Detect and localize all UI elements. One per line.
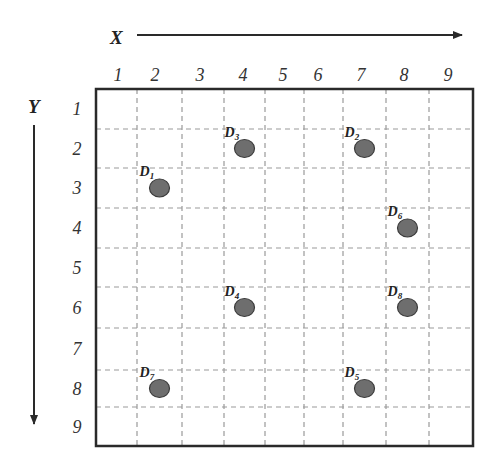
y-tick-label: 5	[73, 258, 82, 278]
point-label: D2	[344, 125, 360, 142]
point-d4: D4	[224, 284, 255, 317]
x-tick-label: 9	[444, 65, 453, 85]
x-axis-title: X	[109, 27, 124, 48]
x-tick-label: 2	[151, 65, 160, 85]
points-layer: D1D2D3D4D5D6D7D8	[139, 125, 418, 398]
x-tick-label: 1	[114, 65, 123, 85]
point-d1: D1	[139, 164, 170, 197]
x-tick-label: 5	[279, 65, 288, 85]
point-label: D8	[387, 284, 403, 301]
y-tick-label: 3	[72, 178, 82, 198]
point-label: D7	[139, 365, 155, 382]
x-tick-label: 6	[314, 65, 323, 85]
point-marker	[355, 140, 375, 158]
point-label: D4	[224, 284, 240, 301]
point-label: D5	[344, 365, 360, 382]
point-marker	[398, 219, 418, 237]
y-tick-label: 7	[73, 339, 83, 359]
point-label: D3	[224, 125, 240, 142]
point-d6: D6	[387, 204, 418, 237]
point-marker	[235, 140, 255, 158]
y-axis-title: Y	[28, 96, 42, 117]
x-tick-label: 7	[357, 65, 367, 85]
x-tick-label: 3	[195, 65, 205, 85]
y-tick-label: 2	[73, 139, 82, 159]
point-marker	[150, 179, 170, 197]
point-label: D1	[139, 164, 155, 181]
y-tick-label: 4	[73, 218, 82, 238]
x-tick-label: 8	[400, 65, 409, 85]
x-axis-ticks: 123456789	[114, 65, 453, 85]
y-tick-label: 6	[73, 298, 82, 318]
point-marker	[398, 299, 418, 317]
y-tick-label: 1	[73, 99, 82, 119]
grid-diagram: X Y 123456789 123456789 D1D2D3D4D5D6D7D8	[0, 0, 498, 473]
point-marker	[150, 380, 170, 398]
point-marker	[235, 299, 255, 317]
point-label: D6	[387, 204, 403, 221]
point-d8: D8	[387, 284, 418, 317]
y-tick-label: 9	[73, 417, 82, 437]
y-tick-label: 8	[73, 379, 82, 399]
x-tick-label: 4	[239, 65, 248, 85]
point-marker	[355, 380, 375, 398]
y-axis-ticks: 123456789	[72, 99, 83, 437]
